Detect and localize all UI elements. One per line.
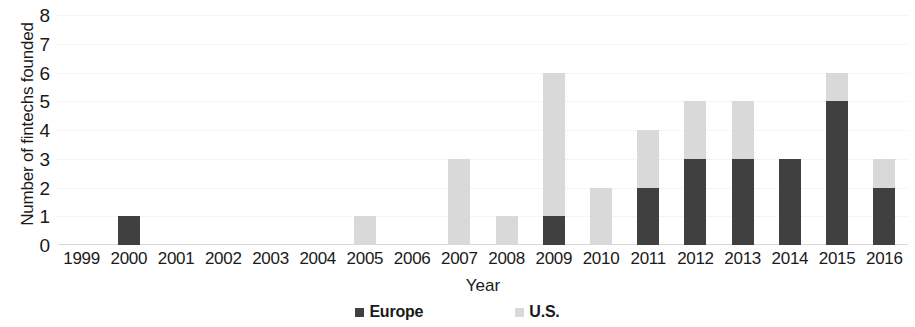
bar-slot xyxy=(577,15,624,245)
y-axis-tick-label: 8 xyxy=(22,6,50,25)
x-axis-tick-label: 2007 xyxy=(436,248,483,270)
chart-legend: EuropeU.S. xyxy=(0,303,915,321)
bar-slot xyxy=(152,15,199,245)
y-axis-tick-label: 4 xyxy=(22,121,50,140)
stacked-bar-chart: Number of fintechs founded 012345678 199… xyxy=(0,0,915,327)
legend-swatch-icon xyxy=(355,308,364,317)
bar-segment-us[interactable] xyxy=(873,159,895,188)
bar-slot xyxy=(200,15,247,245)
x-axis-tick-label: 1999 xyxy=(58,248,105,270)
x-axis-tick-label: 2009 xyxy=(530,248,577,270)
legend-label: Europe xyxy=(369,303,423,321)
x-axis-tick-label: 2005 xyxy=(341,248,388,270)
bar-stack[interactable] xyxy=(779,159,801,245)
x-axis-tick-label: 2015 xyxy=(814,248,861,270)
x-axis-tick-label: 2013 xyxy=(719,248,766,270)
legend-item[interactable]: Europe xyxy=(355,303,423,321)
x-axis-title: Year xyxy=(58,276,908,296)
bar-stack[interactable] xyxy=(590,188,612,246)
bar-slot xyxy=(483,15,530,245)
plot-area xyxy=(58,15,908,245)
y-axis-tick-label: 5 xyxy=(22,92,50,111)
bar-slot xyxy=(105,15,152,245)
bar-segment-us[interactable] xyxy=(684,101,706,159)
y-axis-tick-label: 3 xyxy=(22,149,50,168)
x-axis-tick-label: 2000 xyxy=(105,248,152,270)
bar-slot xyxy=(58,15,105,245)
x-axis-tick-label: 2001 xyxy=(152,248,199,270)
bar-stack[interactable] xyxy=(732,101,754,245)
bar-segment-europe[interactable] xyxy=(779,159,801,245)
bar-slot xyxy=(436,15,483,245)
bar-slot xyxy=(341,15,388,245)
bar-stack[interactable] xyxy=(354,216,376,245)
bar-stack[interactable] xyxy=(543,73,565,246)
bar-segment-europe[interactable] xyxy=(118,216,140,245)
y-axis-tick-label: 6 xyxy=(22,63,50,82)
y-axis-tick-labels: 012345678 xyxy=(22,0,50,260)
bar-slot xyxy=(766,15,813,245)
bar-segment-us[interactable] xyxy=(354,216,376,245)
bar-stack[interactable] xyxy=(496,216,518,245)
bar-segment-us[interactable] xyxy=(637,130,659,188)
y-axis-tick-label: 2 xyxy=(22,178,50,197)
bar-slot xyxy=(247,15,294,245)
x-axis-tick-labels: 1999200020012002200320042005200620072008… xyxy=(58,248,908,270)
bar-slot xyxy=(719,15,766,245)
bar-slot xyxy=(530,15,577,245)
bar-segment-europe[interactable] xyxy=(684,159,706,245)
bar-segment-us[interactable] xyxy=(496,216,518,245)
bar-stack[interactable] xyxy=(118,216,140,245)
x-axis-tick-label: 2004 xyxy=(294,248,341,270)
bar-stack[interactable] xyxy=(873,159,895,245)
bar-stack[interactable] xyxy=(637,130,659,245)
x-axis-tick-label: 2003 xyxy=(247,248,294,270)
x-axis-tick-label: 2014 xyxy=(766,248,813,270)
x-axis-tick-label: 2010 xyxy=(577,248,624,270)
bar-series-group xyxy=(58,15,908,245)
x-axis-tick-label: 2006 xyxy=(389,248,436,270)
legend-swatch-icon xyxy=(515,308,524,317)
bar-segment-europe[interactable] xyxy=(826,101,848,245)
bar-slot xyxy=(814,15,861,245)
bar-slot xyxy=(861,15,908,245)
x-axis-tick-label: 2011 xyxy=(625,248,672,270)
bar-stack[interactable] xyxy=(684,101,706,245)
x-axis-tick-label: 2016 xyxy=(861,248,908,270)
bar-segment-europe[interactable] xyxy=(637,188,659,246)
y-axis-tick-label: 7 xyxy=(22,34,50,53)
x-axis-tick-label: 2008 xyxy=(483,248,530,270)
bar-segment-us[interactable] xyxy=(543,73,565,217)
y-axis-tick-label: 0 xyxy=(22,236,50,255)
bar-stack[interactable] xyxy=(448,159,470,245)
bar-slot xyxy=(625,15,672,245)
bar-stack[interactable] xyxy=(826,73,848,246)
bar-segment-us[interactable] xyxy=(826,73,848,102)
legend-item[interactable]: U.S. xyxy=(515,303,559,321)
bar-segment-us[interactable] xyxy=(732,101,754,159)
y-axis-tick-label: 1 xyxy=(22,207,50,226)
bar-slot xyxy=(389,15,436,245)
bar-segment-us[interactable] xyxy=(590,188,612,246)
bar-segment-europe[interactable] xyxy=(732,159,754,245)
x-axis-tick-label: 2002 xyxy=(200,248,247,270)
bar-segment-europe[interactable] xyxy=(543,216,565,245)
bar-slot xyxy=(294,15,341,245)
legend-label: U.S. xyxy=(529,303,559,321)
x-axis-tick-label: 2012 xyxy=(672,248,719,270)
bar-segment-europe[interactable] xyxy=(873,188,895,246)
bar-segment-us[interactable] xyxy=(448,159,470,245)
bar-slot xyxy=(672,15,719,245)
